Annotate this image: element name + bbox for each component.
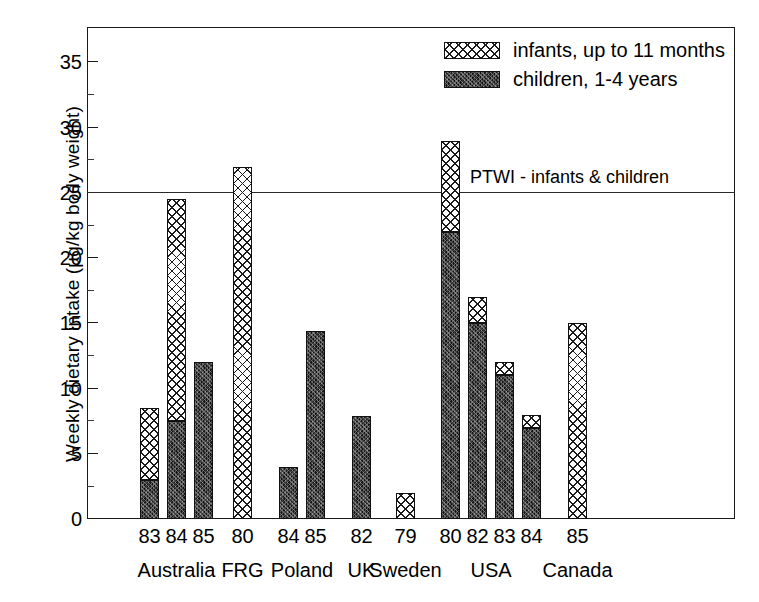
- bar-segment-infants: [441, 141, 460, 232]
- x-axis-group-label: Canada: [498, 559, 658, 582]
- chart-legend: infants, up to 11 months children, 1-4 y…: [444, 36, 725, 94]
- bar-segment-children: [167, 421, 186, 519]
- bar-segment-children: [140, 480, 159, 519]
- bar-segment-children: [441, 232, 460, 519]
- legend-label-infants: infants, up to 11 months: [513, 39, 725, 62]
- bar-segment-children: [194, 362, 213, 519]
- bar-segment-children: [279, 467, 298, 519]
- bar-segment-children: [352, 416, 371, 519]
- bar-segment-infants: [233, 167, 252, 519]
- x-tick-year-label: 79: [386, 525, 426, 548]
- bar-segment-children: [522, 428, 541, 519]
- bar-segment-infants: [495, 362, 514, 375]
- bar-segment-infants: [140, 408, 159, 480]
- bar-segment-infants: [396, 493, 415, 519]
- bar-segment-children: [468, 323, 487, 519]
- x-tick-year-label: 85: [184, 525, 224, 548]
- x-tick-year-label: 85: [558, 525, 598, 548]
- bar-segment-children: [306, 331, 325, 519]
- legend-label-children: children, 1-4 years: [513, 68, 678, 91]
- bar-segment-infants: [568, 323, 587, 519]
- bar-segment-infants: [468, 297, 487, 323]
- x-tick-year-label: 80: [223, 525, 263, 548]
- bar-segment-infants: [522, 415, 541, 428]
- x-tick-year-label: 82: [342, 525, 382, 548]
- x-tick-year-label: 85: [296, 525, 336, 548]
- legend-swatch-children-icon: [444, 71, 500, 88]
- bar-segment-infants: [167, 199, 186, 421]
- legend-swatch-infants-icon: [444, 42, 500, 59]
- x-tick-year-label: 84: [512, 525, 552, 548]
- chart-figure: Weekly dietary intake (µg/kg body weight…: [0, 0, 759, 602]
- legend-item-children: children, 1-4 years: [444, 65, 725, 94]
- legend-item-infants: infants, up to 11 months: [444, 36, 725, 65]
- bar-segment-children: [495, 375, 514, 519]
